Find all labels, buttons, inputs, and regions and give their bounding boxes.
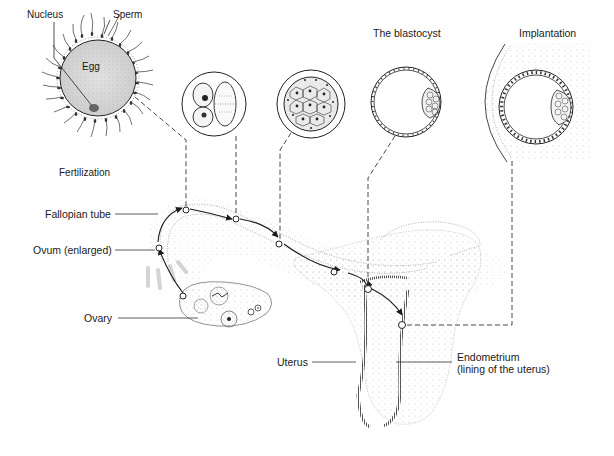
blastocyst: [371, 67, 441, 137]
morula-stage: [277, 70, 345, 138]
label-fertilization: Fertilization: [59, 167, 110, 179]
label-sperm: Sperm: [113, 9, 142, 21]
label-nucleus: Nucleus: [27, 9, 63, 21]
reproductive-tract: [148, 196, 508, 427]
diagram-canvas: Nucleus Sperm Egg Fertilization The blas…: [0, 0, 614, 456]
label-blastocyst: The blastocyst: [373, 27, 441, 39]
label-endometrium-desc: (lining of the uterus): [457, 363, 550, 375]
egg-with-sperm: [42, 13, 153, 137]
label-uterus: Uterus: [277, 356, 308, 368]
label-implantation: Implantation: [519, 27, 576, 39]
label-ovary: Ovary: [84, 312, 112, 324]
implantation: [485, 44, 590, 162]
label-ovum: Ovum (enlarged): [33, 244, 112, 256]
label-egg: Egg: [82, 61, 100, 73]
nucleus: [89, 104, 99, 112]
two-cell-stage: [182, 72, 246, 136]
label-fallopian-tube: Fallopian tube: [45, 208, 111, 220]
label-endometrium: Endometrium: [457, 351, 519, 363]
